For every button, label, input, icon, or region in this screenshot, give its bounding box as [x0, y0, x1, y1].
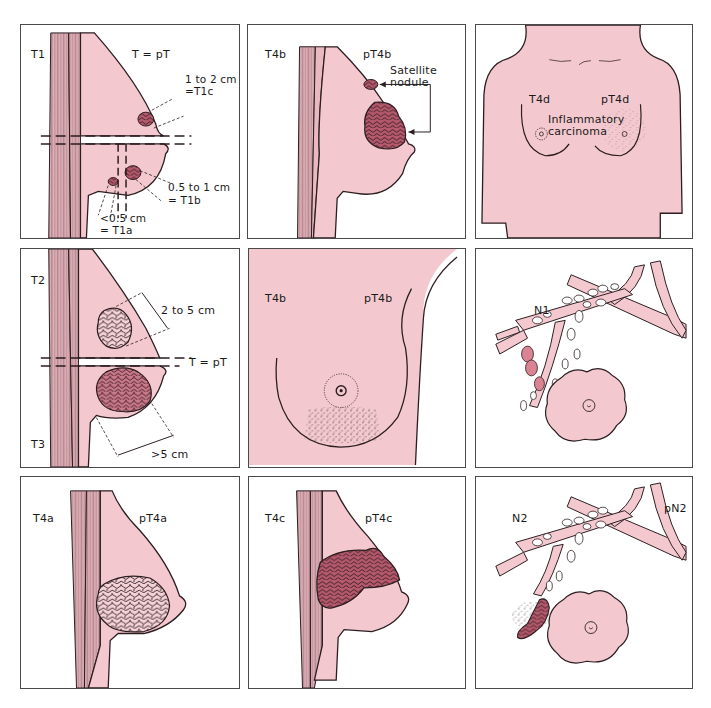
- panel-n1: N1: [475, 248, 693, 468]
- primary-tumor: [365, 102, 406, 149]
- stage-label-t3: T3: [31, 439, 45, 451]
- n1-lymph-node-illustration: [476, 249, 692, 467]
- equivalence-label: T = pT: [132, 49, 170, 61]
- annotation-line2: carcinoma: [548, 126, 607, 138]
- t4b-skin-frontal-illustration: [249, 249, 465, 467]
- t4c-illustration: [249, 477, 465, 688]
- breast-mass: [548, 591, 629, 663]
- t1c-size-label: 1 to 2 cm: [185, 74, 237, 86]
- equivalence-label: T = pT: [189, 357, 227, 369]
- annotation-line2: nodule: [390, 77, 429, 89]
- stage-label: T1: [31, 49, 45, 61]
- breast-mass: [546, 369, 627, 441]
- stage-label: T4b: [265, 49, 286, 61]
- panel-t4d: T4d pT4d Inflammatory carcinoma: [475, 24, 693, 239]
- stage-label: N1: [534, 305, 550, 317]
- tumor-t1c: [138, 112, 154, 126]
- panel-t2-t3: T2 T3 T = pT 2 to 5 cm >5 cm: [20, 248, 240, 468]
- stage-label: T4a: [33, 513, 54, 525]
- t2-size-label: 2 to 5 cm: [161, 305, 215, 317]
- t1a-code-label: = T1a: [100, 225, 133, 237]
- panel-t4b-satellite: T4b pT4b Satellite nodule: [247, 24, 466, 239]
- pathologic-label: pN2: [664, 503, 687, 515]
- pathologic-label: pT4b: [364, 293, 392, 305]
- tumor-t2: [97, 308, 131, 348]
- pathologic-label: pT4d: [601, 94, 629, 106]
- t1a-size-label: <0.5 cm: [100, 213, 146, 225]
- involved-nodes: [522, 346, 545, 391]
- stage-label-t2: T2: [31, 275, 45, 287]
- t1b-size-label: 0.5 to 1 cm: [168, 182, 230, 194]
- peau-dorange-area: [304, 407, 381, 444]
- stage-label: N2: [512, 513, 528, 525]
- n2-lymph-node-illustration: [476, 477, 692, 688]
- t1c-code-label: =T1c: [185, 86, 213, 98]
- t1-breast-sagittal-illustration: [21, 25, 239, 238]
- pathologic-label: pT4c: [365, 513, 393, 525]
- tumor-t1b: [125, 166, 141, 180]
- t4a-chest-wall-illustration: [21, 477, 239, 688]
- stage-label: T4c: [265, 513, 285, 525]
- tumor-chest-wall: [97, 576, 170, 632]
- panel-t1: T1 T = pT 1 to 2 cm =T1c 0.5 to 1 cm = T…: [20, 24, 240, 239]
- t1b-code-label: = T1b: [168, 195, 201, 207]
- panel-t4a: T4a pT4a: [20, 476, 240, 689]
- satellite-nodule: [364, 79, 378, 89]
- stage-label: T4b: [265, 293, 286, 305]
- panel-t4c: T4c pT4c: [248, 476, 466, 689]
- stage-label: T4d: [529, 94, 550, 106]
- pathologic-label: pT4a: [139, 513, 167, 525]
- t3-size-label: >5 cm: [151, 449, 188, 461]
- pathologic-label: pT4b: [363, 49, 391, 61]
- panel-n2: N2 pN2: [475, 476, 693, 689]
- tumor-t1a: [108, 178, 118, 186]
- panel-t4b-skin: T4b pT4b: [248, 248, 466, 468]
